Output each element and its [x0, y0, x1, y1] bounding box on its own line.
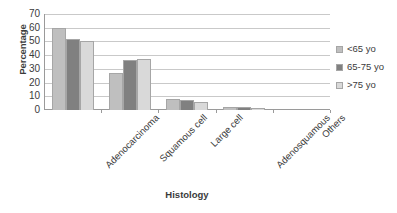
bar[interactable]	[180, 100, 194, 110]
bar[interactable]	[109, 73, 123, 110]
legend-item[interactable]: <65 yo	[336, 40, 396, 58]
bar[interactable]	[251, 108, 265, 110]
bar[interactable]	[237, 107, 251, 110]
bar[interactable]	[166, 99, 180, 110]
legend-swatch-icon	[336, 82, 343, 89]
bar[interactable]	[52, 28, 66, 110]
bar[interactable]	[137, 59, 151, 110]
legend: <65 yo65-75 yo>75 yo	[336, 40, 396, 94]
bar[interactable]	[123, 60, 137, 110]
bar[interactable]	[194, 102, 208, 110]
y-axis-tick-label: 20	[16, 78, 40, 88]
legend-label: 65-75 yo	[347, 62, 384, 72]
legend-label: >75 yo	[347, 80, 376, 90]
legend-item[interactable]: 65-75 yo	[336, 58, 396, 76]
x-axis-category-label: Squamous cell	[157, 112, 209, 164]
y-axis-tick-label: 70	[16, 9, 40, 19]
legend-swatch-icon	[336, 46, 343, 53]
x-axis-category-label: Adenosquamous	[274, 112, 332, 170]
bar[interactable]	[66, 39, 80, 110]
bar-group	[101, 14, 158, 110]
x-axis-category-label: Adenocarcinoma	[103, 112, 161, 170]
bar-group	[158, 14, 215, 110]
plot-area	[44, 14, 330, 110]
legend-swatch-icon	[336, 64, 343, 71]
y-axis-tick-label: 50	[16, 36, 40, 46]
y-axis-tick-label: 40	[16, 50, 40, 60]
bar[interactable]	[80, 41, 94, 110]
bar-group	[44, 14, 101, 110]
y-axis-tick-label: 0	[16, 105, 40, 115]
y-axis-tick-labels: 010203040506070	[16, 9, 40, 110]
y-axis-tick-label: 60	[16, 23, 40, 33]
x-axis-category-labels: AdenocarcinomaSquamous cellLarge cellAde…	[44, 112, 330, 174]
y-axis-tick-label: 30	[16, 64, 40, 74]
legend-item[interactable]: >75 yo	[336, 76, 396, 94]
legend-label: <65 yo	[347, 44, 376, 54]
bar-chart: Percentage 010203040506070 Adenocarcinom…	[0, 0, 397, 213]
bar[interactable]	[223, 107, 237, 110]
x-axis-tickmark	[330, 110, 331, 113]
y-axis-tick-label: 10	[16, 91, 40, 101]
x-axis-title: Histology	[44, 189, 330, 200]
bar-groups	[44, 14, 330, 110]
bar-group	[216, 14, 273, 110]
bar-group	[273, 14, 330, 110]
x-axis-category-label: Large cell	[208, 112, 245, 149]
